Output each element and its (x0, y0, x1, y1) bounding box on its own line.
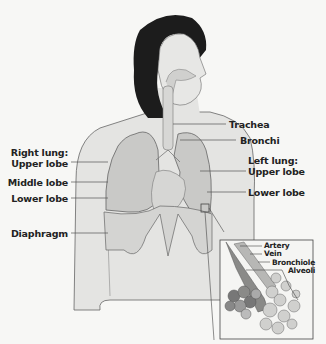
label-right-lower-lobe: Lower lobe (8, 193, 68, 204)
label-left-lower-lobe: Lower lobe (248, 187, 305, 198)
label-bronchi: Bronchi (240, 135, 279, 146)
label-right-upper-lobe: Upper lobe (8, 158, 68, 169)
respiratory-diagram: Right lung: Upper lobe Middle lobe Lower… (0, 0, 326, 344)
label-right-middle-lobe: Middle lobe (0, 177, 68, 188)
label-diaphragm: Diaphragm (4, 228, 68, 239)
label-trachea: Trachea (229, 119, 269, 130)
label-right-lung-heading: Right lung: (8, 147, 68, 158)
trachea (163, 86, 173, 150)
label-left-upper-lobe: Upper lobe (248, 166, 305, 177)
label-vein: Vein (264, 249, 282, 258)
label-left-lung-heading: Left lung: (248, 155, 298, 166)
label-alveoli: Alveoli (288, 266, 315, 275)
